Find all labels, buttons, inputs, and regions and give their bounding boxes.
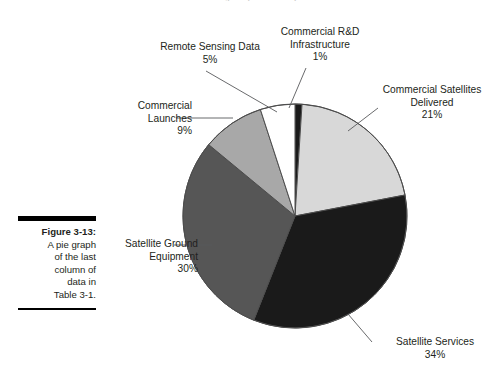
pie-label-commercial-rnd-name-1: Commercial R&D: [264, 26, 376, 39]
pie-label-commercial-satellites-name-2: Delivered: [366, 97, 498, 110]
pie-label-commercial-satellites-name-1: Commercial Satellites: [366, 84, 498, 97]
pie-label-remote-sensing-data: Remote Sensing Data 5%: [142, 41, 278, 66]
figure-number: Figure 3-13:: [18, 226, 96, 239]
pie-label-satellite-services: Satellite Services 34%: [372, 336, 498, 361]
leader-line-commercial-rnd: [289, 68, 306, 108]
caption-line-2: of the last: [18, 251, 96, 264]
pie-label-remote-sensing-data-name: Remote Sensing Data: [142, 41, 278, 54]
caption-line-5: Table 3-1.: [18, 289, 96, 302]
pie-label-remote-sensing-data-value: 5%: [142, 54, 278, 67]
caption-line-3: column of: [18, 264, 96, 277]
leader-line-satellite-services: [348, 314, 372, 342]
pie-label-commercial-satellites-value: 21%: [366, 109, 498, 122]
pie-label-satellite-ground-name-2: Equipment: [86, 251, 198, 264]
pie-label-commercial-launches: Commercial Launches 9%: [88, 100, 192, 138]
pie-label-satellite-ground-name-1: Satellite Ground: [86, 238, 198, 251]
pie-label-commercial-satellites-delivered: Commercial Satellites Delivered 21%: [366, 84, 498, 122]
figure-caption-text: Figure 3-13: A pie graph of the last col…: [18, 221, 96, 305]
caption-line-4: data in: [18, 276, 96, 289]
pie-label-commercial-rnd-name-2: Infrastructure: [264, 39, 376, 52]
pie-label-commercial-launches-value: 9%: [88, 125, 192, 138]
figure-caption-block: Figure 3-13: A pie graph of the last col…: [18, 216, 96, 310]
caption-line-1: A pie graph: [18, 239, 96, 252]
pie-label-satellite-services-name: Satellite Services: [372, 336, 498, 349]
pie-label-commercial-rnd-infrastructure: Commercial R&D Infrastructure 1%: [264, 26, 376, 64]
figure-page: IC Technologies Optical Microsystems: [0, 0, 502, 385]
pie-label-satellite-ground-value: 30%: [86, 263, 198, 276]
leader-line-remote-sensing: [206, 71, 277, 112]
pie-label-satellite-services-value: 34%: [372, 349, 498, 362]
pie-label-commercial-launches-name-2: Launches: [88, 113, 192, 126]
pie-label-commercial-launches-name-1: Commercial: [88, 100, 192, 113]
caption-rule-bottom: [18, 308, 96, 310]
pie-label-commercial-rnd-value: 1%: [264, 51, 376, 64]
pie-label-satellite-ground-equipment: Satellite Ground Equipment 30%: [86, 238, 198, 276]
